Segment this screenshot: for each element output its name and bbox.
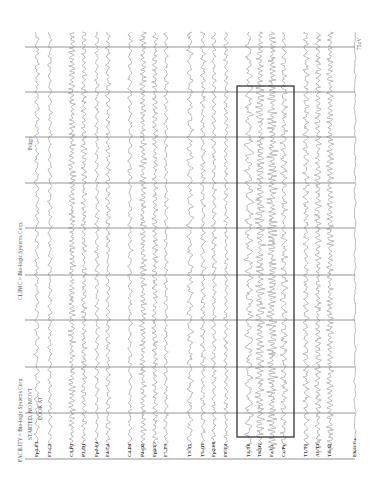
channel-label: F3-C3 (47, 444, 52, 457)
channel-label: F8-T4 (223, 444, 228, 457)
channel-label: Fp2-F4 (94, 441, 99, 457)
eeg-trace-t3-t5 (186, 32, 194, 452)
eeg-trace-canvas (0, 0, 372, 499)
eeg-trace-t4-a2 (326, 32, 334, 452)
eeg-trace-f7-t3 (164, 32, 169, 452)
channel-label: T3-T5 (187, 444, 192, 457)
channel-label: T6-O2 (257, 443, 262, 457)
channel-label: Fp1-F3 (34, 441, 39, 457)
eeg-trace-fp2-f4 (94, 32, 99, 452)
eeg-trace-a1-t3 (314, 32, 322, 452)
eeg-trace-f3-c3 (48, 32, 53, 452)
eeg-trace-fz-cz (266, 32, 278, 452)
eeg-trace-fp1-f3 (34, 32, 40, 452)
channel-label: P4-O2 (140, 443, 145, 457)
channel-label: EKG-Cz (352, 438, 357, 457)
channel-label: T4-A2 (327, 443, 332, 457)
eeg-trace-t6-o2 (255, 32, 266, 452)
channel-label: C3-P3 (69, 444, 74, 457)
eeg-printout-page: FACILITY = Bio-logic Systems Corp. START… (0, 0, 372, 499)
clinic-label: CLINIC = Bio-logic Systems Corp. (17, 222, 23, 300)
channel-label: A1-T3 (315, 443, 320, 457)
channel-label: Fp1-F7 (152, 441, 157, 457)
instruction-label: LOOK AT (37, 397, 43, 420)
eeg-trace-ekg-cz (354, 32, 357, 452)
eeg-trace-f4-c4 (105, 32, 111, 452)
eeg-trace-fp2-f8 (211, 32, 216, 452)
channel-label: Fz-Cz (269, 444, 274, 457)
eeg-trace-p3-o1 (81, 32, 87, 452)
eeg-trace-t4-t6 (244, 32, 254, 452)
annotation-label: Fdign (27, 137, 33, 150)
eeg-trace-t1-t2 (303, 32, 310, 452)
eeg-trace-p4-o2 (139, 32, 147, 452)
eeg-trace-c3-p3 (68, 32, 76, 452)
eeg-trace-c4-p4 (128, 32, 133, 452)
channel-label: T4-T6 (246, 444, 251, 457)
channel-label: F4-C4 (105, 444, 110, 457)
channel-label: C4-P4 (127, 444, 132, 457)
channel-label: Fp2-F8 (211, 441, 216, 457)
channel-label: P3-O1 (81, 443, 86, 457)
state-label: STARTED, NO MOVT (27, 388, 33, 440)
channel-label: T1-T2 (303, 444, 308, 457)
channel-label: F7-T3 (163, 444, 168, 457)
eeg-trace-t5-o1 (200, 32, 206, 452)
calibration-label: 75uV (356, 38, 362, 50)
channel-label: Cz-Pz (281, 444, 286, 457)
eeg-trace-f8-t4 (223, 32, 228, 452)
facility-label: FACILITY = Bio-logic Systems Corp. (17, 377, 23, 462)
eeg-trace-fp1-f7 (152, 32, 158, 452)
eeg-trace-cz-pz (280, 32, 288, 452)
channel-label: T5-O1 (200, 443, 205, 457)
